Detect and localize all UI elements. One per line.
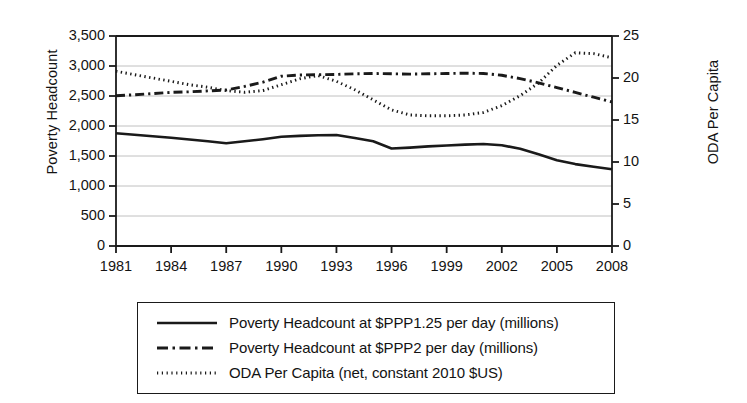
chart-figure: Poverty Headcount ODA Per Capita 05001,0… [0, 0, 747, 403]
legend-item: Poverty Headcount at $PPP1.25 per day (m… [138, 310, 614, 335]
legend-item: Poverty Headcount at $PPP2 per day (mill… [138, 335, 614, 360]
legend-swatch-dashdot [156, 341, 218, 355]
series-line-0 [116, 133, 612, 169]
legend-swatch-dotted [156, 366, 218, 380]
legend-label: Poverty Headcount at $PPP2 per day (mill… [229, 339, 538, 356]
legend-label: Poverty Headcount at $PPP1.25 per day (m… [229, 314, 559, 331]
legend-label: ODA Per Capita (net, constant 2010 $US) [229, 364, 503, 381]
chart-legend: Poverty Headcount at $PPP1.25 per day (m… [137, 302, 615, 394]
series-line-1 [116, 73, 612, 102]
legend-item: ODA Per Capita (net, constant 2010 $US) [138, 360, 614, 385]
series-line-2 [116, 53, 612, 116]
legend-swatch-solid [156, 316, 218, 330]
